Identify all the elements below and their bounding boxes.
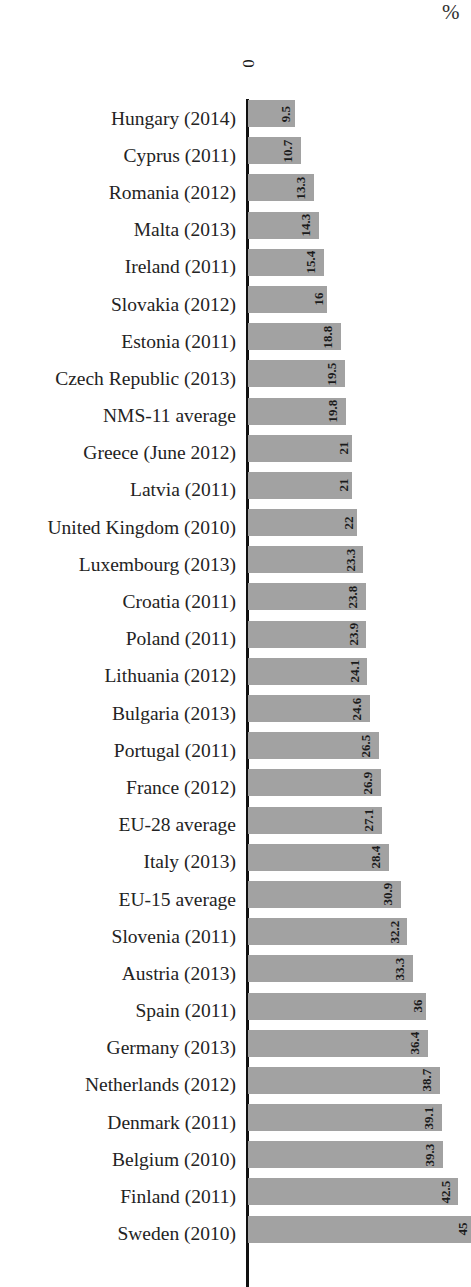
- bar-container: 30.9: [248, 881, 401, 908]
- category-label: Ireland (2011): [125, 258, 236, 278]
- bar-container: 24.1: [248, 658, 367, 685]
- bar: 19.5: [248, 360, 345, 387]
- bar-value-label: 36.4: [408, 1032, 421, 1055]
- bar-container: 42.5: [248, 1178, 458, 1205]
- category-label: Czech Republic (2013): [55, 369, 236, 389]
- bar-row: Italy (2013)28.4: [0, 844, 470, 881]
- bar: 38.7: [248, 1067, 440, 1094]
- category-label: Romania (2012): [109, 183, 236, 203]
- category-label: Malta (2013): [134, 220, 236, 240]
- category-label: EU-28 average: [119, 815, 236, 835]
- bar-value-label: 33.3: [393, 957, 406, 980]
- category-label: Latvia (2011): [130, 481, 236, 501]
- bar-row: Sweden (2010)45: [0, 1216, 470, 1253]
- bar-row: NMS-11 average19.8: [0, 398, 470, 435]
- bar: 30.9: [248, 881, 401, 908]
- bar-value-label: 13.3: [294, 177, 307, 200]
- category-label: Denmark (2011): [107, 1113, 236, 1133]
- category-label: EU-15 average: [119, 890, 236, 910]
- bar-row: EU-28 average27.1: [0, 807, 470, 844]
- category-label: Netherlands (2012): [85, 1076, 236, 1096]
- bar: 23.3: [248, 546, 363, 573]
- bar: 21: [248, 472, 352, 499]
- bar-container: 14.3: [248, 212, 319, 239]
- bar-value-label: 9.5: [278, 105, 291, 121]
- bar-value-label: 18.8: [321, 325, 334, 348]
- bar-value-label: 10.7: [281, 139, 294, 162]
- category-label: Greece (June 2012): [83, 444, 236, 464]
- bar: 26.9: [248, 769, 381, 796]
- bar-row: Estonia (2011)18.8: [0, 323, 470, 360]
- bar-value-label: 21: [337, 442, 350, 455]
- bar-container: 32.2: [248, 918, 407, 945]
- category-label: France (2012): [126, 778, 236, 798]
- bar-container: 36: [248, 993, 426, 1020]
- category-label: Portugal (2011): [114, 741, 236, 761]
- bar-rows: Hungary (2014)9.5Cyprus (2011)10.7Romani…: [0, 100, 470, 1253]
- bar-row: Czech Republic (2013)19.5: [0, 360, 470, 397]
- bar-container: 39.1: [248, 1104, 442, 1131]
- bar-container: 26.9: [248, 769, 381, 796]
- bar-row: Cyprus (2011)10.7: [0, 137, 470, 174]
- bar-row: Malta (2013)14.3: [0, 212, 470, 249]
- category-label: Hungary (2014): [111, 109, 236, 129]
- bar-container: 36.4: [248, 1030, 428, 1057]
- bar-value-label: 14.3: [299, 214, 312, 237]
- bar-value-label: 15.4: [304, 251, 317, 274]
- unit-label: %: [442, 2, 460, 23]
- bar-value-label: 16: [312, 293, 325, 306]
- bar-value-label: 21: [337, 479, 350, 492]
- bar-value-label: 42.5: [439, 1181, 452, 1204]
- bar-value-label: 23.8: [346, 586, 359, 609]
- bar-container: 16: [248, 286, 327, 313]
- bar-container: 21: [248, 472, 352, 499]
- bar-container: 26.5: [248, 732, 379, 759]
- bar: 23.8: [248, 583, 366, 610]
- bar-row: Austria (2013)33.3: [0, 955, 470, 992]
- category-label: Cyprus (2011): [124, 146, 236, 166]
- bar: 21: [248, 435, 352, 462]
- bar: 42.5: [248, 1178, 458, 1205]
- bar: 15.4: [248, 249, 324, 276]
- bar-container: 27.1: [248, 807, 382, 834]
- category-label: Sweden (2010): [117, 1224, 236, 1244]
- bar-container: 38.7: [248, 1067, 440, 1094]
- bar-value-label: 23.9: [346, 623, 359, 646]
- bar: 14.3: [248, 212, 319, 239]
- bar-value-label: 24.6: [350, 697, 363, 720]
- bar: 16: [248, 286, 327, 313]
- bar-row: Ireland (2011)15.4: [0, 249, 470, 286]
- category-label: Italy (2013): [143, 853, 236, 873]
- bar-row: Denmark (2011)39.1: [0, 1104, 470, 1141]
- bar-value-label: 27.1: [362, 809, 375, 832]
- bar-value-label: 39.1: [422, 1106, 435, 1129]
- bar: 32.2: [248, 918, 407, 945]
- bar-row: Spain (2011)36: [0, 993, 470, 1030]
- bar-container: 10.7: [248, 137, 301, 164]
- bar-value-label: 22: [342, 516, 355, 529]
- bar-container: 21: [248, 435, 352, 462]
- bar: 19.8: [248, 398, 346, 425]
- bar-value-label: 19.5: [325, 362, 338, 385]
- bar: 45: [248, 1216, 471, 1243]
- bar-row: United Kingdom (2010)22: [0, 509, 470, 546]
- bar-value-label: 23.3: [343, 548, 356, 571]
- bar: 9.5: [248, 100, 295, 127]
- bar-container: 15.4: [248, 249, 324, 276]
- bar-container: 39.3: [248, 1141, 443, 1168]
- category-label: Poland (2011): [126, 629, 236, 649]
- bar-row: Belgium (2010)39.3: [0, 1141, 470, 1178]
- category-label: Finland (2011): [120, 1187, 236, 1207]
- bar-value-label: 24.1: [347, 660, 360, 683]
- bar: 36.4: [248, 1030, 428, 1057]
- bar-value-label: 26.5: [359, 734, 372, 757]
- category-label: Germany (2013): [107, 1039, 236, 1059]
- bar-value-label: 45: [456, 1223, 469, 1236]
- bar: 33.3: [248, 955, 413, 982]
- bar: 39.1: [248, 1104, 442, 1131]
- bar-container: 23.3: [248, 546, 363, 573]
- bar-row: Latvia (2011)21: [0, 472, 470, 509]
- bar-container: 23.8: [248, 583, 366, 610]
- bar: 36: [248, 993, 426, 1020]
- category-label: Luxembourg (2013): [79, 555, 236, 575]
